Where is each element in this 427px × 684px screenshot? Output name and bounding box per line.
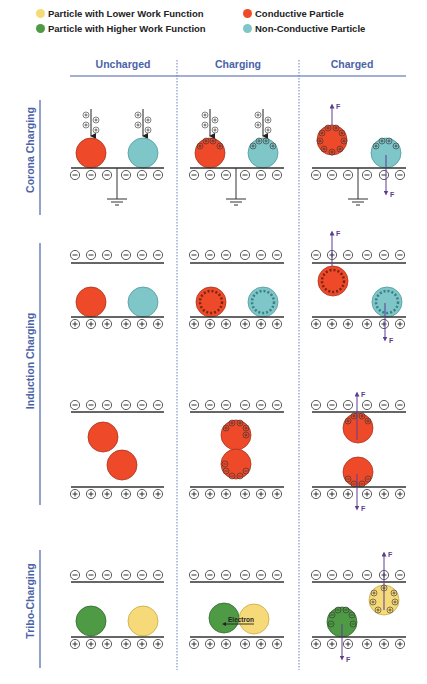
svg-text:F: F [361,505,366,512]
svg-text:F: F [390,191,395,198]
tribo-charged-cell: F F [311,551,406,663]
svg-text:F: F [361,391,366,398]
svg-text:Electron: Electron [228,616,254,623]
svg-text:F: F [336,230,341,237]
tribo-charging-cell: Electron [189,570,284,648]
corona-charged-cell: F F [311,103,406,205]
svg-text:F: F [389,337,394,344]
charging-diagram: F F F [0,0,427,684]
corona-uncharged-cell [70,109,164,205]
induction-2-charged-cell: F F [311,391,406,512]
tribo-uncharged-cell [70,570,164,648]
induction-2-uncharged-cell [70,400,164,498]
svg-text:F: F [388,551,393,558]
induction-1-charged-cell: F F [311,230,406,344]
induction-2-charging-cell [189,400,284,498]
svg-text:F: F [336,103,341,110]
corona-charging-cell [189,109,284,205]
svg-text:F: F [346,656,351,663]
induction-1-charging-cell [189,250,284,328]
induction-1-uncharged-cell [70,250,164,328]
